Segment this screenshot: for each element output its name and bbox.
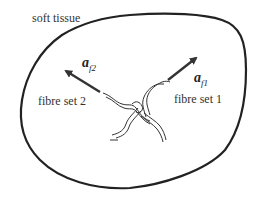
vector-label-f2: af2 — [82, 55, 96, 73]
vector-arrow-f1 — [168, 58, 196, 80]
vector-subscript: f2 — [89, 63, 96, 73]
fibre-set-2-label: fibre set 2 — [38, 94, 86, 109]
fibre-diagram: soft tissue af2 af1 fibre set 2 fibre se… — [0, 0, 260, 198]
vector-arrow-f2 — [66, 71, 100, 92]
vector-symbol: a — [194, 70, 201, 85]
vector-subscript: f1 — [201, 78, 208, 88]
region-label-soft-tissue: soft tissue — [32, 11, 80, 26]
vector-symbol: a — [82, 55, 89, 70]
vector-label-f1: af1 — [194, 70, 208, 88]
fibre-bundle — [103, 81, 170, 142]
fibre-set-1-label: fibre set 1 — [174, 92, 222, 107]
